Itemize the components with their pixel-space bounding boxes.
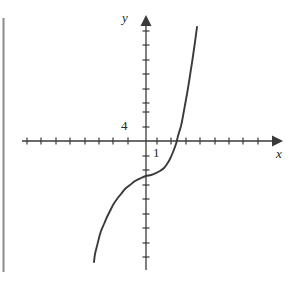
y-axis-label: y (122, 11, 128, 24)
cartesian-plot (0, 0, 297, 290)
y-axis-arrowhead (141, 15, 152, 26)
x-tick-label-1: 1 (153, 146, 160, 159)
y-tick-label-4: 4 (121, 119, 128, 132)
y-axis (141, 15, 152, 270)
x-axis-arrowhead (272, 136, 283, 147)
x-axis-label: x (276, 147, 282, 160)
graph-figure: y x 4 1 (0, 0, 297, 290)
